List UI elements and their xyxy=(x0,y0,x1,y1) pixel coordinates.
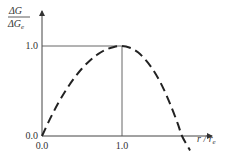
y-label-denominator: ΔGe xyxy=(7,18,24,31)
x-label: r / re xyxy=(197,133,216,146)
x-tick-label: 0.0 xyxy=(36,140,49,151)
x-tick-label: 1.0 xyxy=(116,140,129,151)
y-tick-label: 1.0 xyxy=(26,40,39,51)
y-label-numerator: ΔG xyxy=(8,5,22,16)
y-tick-label: 0.0 xyxy=(26,130,39,141)
curve-series-line xyxy=(42,46,190,150)
chart: ΔG ΔGe r / re 0.01.00.01.0 xyxy=(0,0,228,157)
